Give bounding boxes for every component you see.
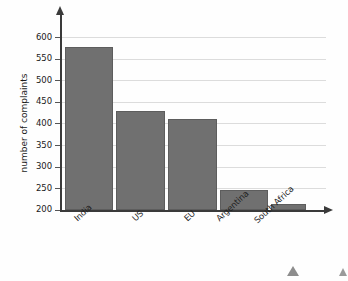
gridline-600 [60,37,326,38]
triangle-marker-secondary-icon [339,268,347,276]
bar-india[interactable] [65,47,113,210]
x-axis-arrow-icon [324,206,333,214]
triangle-marker-icon [287,266,299,276]
y-tick-label-200: 200 [22,205,52,214]
y-tick-label-600-wrap: 600 [18,33,52,42]
y-axis-title: number of complaints [19,53,29,193]
plot-area: 600 550 500 450 400 350 300 250 [0,0,348,281]
bar-eu[interactable] [168,119,217,210]
bar-chart: 600 550 500 450 400 350 300 250 [0,0,348,281]
bar-us[interactable] [116,111,165,210]
y-axis-arrow-icon [56,6,64,15]
y-tick-label-600: 600 [22,33,52,42]
y-axis-line [60,14,62,211]
y-tick-label-200-wrap: 200 [18,205,52,214]
